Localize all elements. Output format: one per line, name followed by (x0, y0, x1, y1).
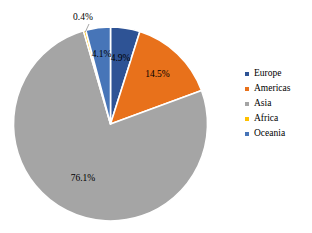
legend-label-europe: Europe (254, 68, 281, 79)
legend-swatch-asia (245, 102, 249, 106)
legend-swatch-africa (245, 117, 249, 121)
legend-swatch-oceania (245, 132, 249, 136)
legend-item-asia[interactable]: Asia (245, 96, 312, 111)
pie-chart: 4.9%14.5%76.1%0.4%4.1% Europe Americas A… (0, 0, 312, 233)
legend-item-oceania[interactable]: Oceania (245, 126, 312, 141)
legend-label-africa: Africa (254, 113, 278, 124)
legend-item-americas[interactable]: Americas (245, 81, 312, 96)
legend-item-africa[interactable]: Africa (245, 111, 312, 126)
legend-label-americas: Americas (254, 83, 290, 94)
data-label-africa: 0.4% (73, 12, 93, 22)
data-label-asia: 76.1% (71, 173, 96, 183)
legend-label-asia: Asia (254, 98, 271, 109)
legend-swatch-europe (245, 72, 249, 76)
data-label-oceania: 4.1% (92, 49, 112, 59)
legend-item-europe[interactable]: Europe (245, 66, 312, 81)
data-label-americas: 14.5% (145, 69, 170, 79)
data-label-europe: 4.9% (111, 53, 131, 63)
legend-label-oceania: Oceania (254, 128, 285, 139)
legend-swatch-americas (245, 87, 249, 91)
chart-legend: Europe Americas Asia Africa Oceania (245, 66, 312, 141)
